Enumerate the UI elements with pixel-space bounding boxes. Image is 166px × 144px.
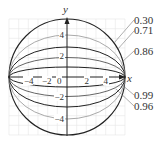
x-tick-label: 4 xyxy=(104,76,109,86)
y-tick-label: 4 xyxy=(60,30,65,40)
x-tick-label: −4 xyxy=(24,76,34,86)
y-tick-label: 2 xyxy=(60,51,65,61)
y-axis-label: y xyxy=(62,3,68,15)
x-tick-label: 0 xyxy=(57,76,62,86)
y-tick-label: −4 xyxy=(55,114,65,124)
eccentricity-label-071: 0.71 xyxy=(134,24,153,36)
leader-lines xyxy=(114,20,134,106)
y-axis-arrow-icon xyxy=(65,17,70,24)
x-tick-label: 2 xyxy=(85,76,90,86)
eccentricity-label-096: 0.96 xyxy=(134,100,154,112)
ellipse-eccentricity-diagram: x y −4 −2 0 2 4 4 2 −2 −4 0.30 0.71 0.86… xyxy=(0,0,166,144)
y-tick-label: −2 xyxy=(55,92,65,102)
eccentricity-label-086: 0.86 xyxy=(134,45,154,57)
x-tick-label: −2 xyxy=(42,76,52,86)
x-axis-label: x xyxy=(126,72,132,84)
